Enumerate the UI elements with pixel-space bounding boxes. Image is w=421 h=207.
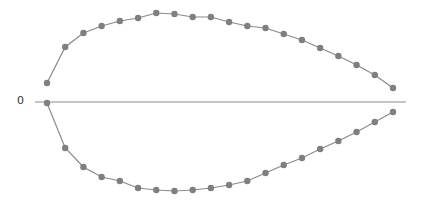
data-point-marker (208, 185, 214, 191)
data-point-marker (189, 14, 195, 20)
data-point-marker (335, 53, 341, 59)
data-point-marker (98, 23, 104, 29)
data-point-marker (44, 100, 50, 106)
data-point-marker (244, 23, 250, 29)
data-point-marker (353, 62, 359, 68)
data-point-marker (281, 162, 287, 168)
data-point-marker (390, 85, 396, 91)
data-point-marker (189, 187, 195, 193)
data-point-marker (317, 45, 323, 51)
data-point-marker (135, 185, 141, 191)
data-point-marker (117, 178, 123, 184)
y-axis-zero-label: 0 (17, 94, 24, 107)
data-point-marker (208, 14, 214, 20)
data-point-marker (80, 30, 86, 36)
data-point-marker (262, 25, 268, 31)
data-point-marker (117, 18, 123, 24)
data-point-marker (171, 11, 177, 17)
data-point-marker (153, 10, 159, 16)
data-point-marker (281, 31, 287, 37)
data-point-marker (299, 155, 305, 161)
data-point-marker (135, 15, 141, 21)
data-point-marker (226, 182, 232, 188)
data-point-marker (372, 72, 378, 78)
data-point-marker (390, 109, 396, 115)
data-point-marker (335, 138, 341, 144)
data-point-marker (98, 174, 104, 180)
data-point-marker (62, 145, 68, 151)
data-point-marker (226, 19, 232, 25)
data-point-marker (372, 119, 378, 125)
data-point-marker (44, 80, 50, 86)
series-line-upper (47, 13, 393, 88)
data-point-marker (317, 146, 323, 152)
data-point-marker (171, 188, 177, 194)
data-point-marker (80, 164, 86, 170)
line-chart (0, 0, 421, 207)
data-point-marker (62, 44, 68, 50)
data-point-marker (353, 129, 359, 135)
data-point-marker (299, 37, 305, 43)
data-point-marker (262, 170, 268, 176)
data-point-marker (153, 187, 159, 193)
data-point-marker (244, 178, 250, 184)
